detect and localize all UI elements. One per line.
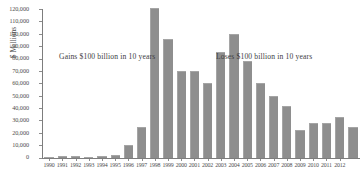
bar — [111, 155, 120, 157]
bar — [84, 157, 93, 158]
bar — [137, 127, 146, 158]
x-axis-tick-label: 1996 — [122, 162, 135, 168]
annotation-gains: Gains $100 billion in 10 years — [59, 52, 155, 61]
y-axis-tick-label: 50,000 — [12, 93, 29, 99]
annotation-loses: Loses $100 billion in 10 years — [216, 52, 312, 61]
x-axis-tick-label: 2009 — [293, 162, 306, 168]
y-axis-tick-label: 60,000 — [12, 80, 29, 86]
x-axis-tick-label: 2010 — [307, 162, 320, 168]
bar — [58, 156, 67, 157]
x-axis-tick-label: 2003 — [214, 162, 227, 168]
bar — [295, 130, 304, 157]
y-axis-tick-label: 90,000 — [12, 43, 29, 49]
plot-area — [43, 9, 360, 158]
bar — [348, 127, 357, 158]
y-axis-tick-label: 120,000 — [9, 6, 29, 12]
x-axis-tick-label: 2000 — [175, 162, 188, 168]
bar — [177, 71, 186, 158]
x-axis-tick-label: 1991 — [56, 162, 69, 168]
x-axis-tick-label: 1992 — [69, 162, 82, 168]
bar — [309, 123, 318, 158]
bar — [150, 8, 159, 158]
bar — [216, 52, 225, 157]
y-axis-tick-label: 70,000 — [12, 68, 29, 74]
x-axis-tick-label: 1990 — [43, 162, 56, 168]
bar — [203, 83, 212, 157]
bar — [335, 117, 344, 158]
bar — [282, 106, 291, 158]
x-axis-tick-label: 1999 — [161, 162, 174, 168]
bar — [322, 123, 331, 158]
y-axis-tick-labels: 010,00020,00030,00040,00050,00060,00070,… — [0, 0, 33, 179]
y-axis-tick-label: 0 — [26, 154, 29, 160]
y-axis-tick-label: 110,000 — [9, 18, 29, 24]
x-axis-tick-label: 2012 — [333, 162, 346, 168]
y-axis-tick-label: 20,000 — [12, 130, 29, 136]
bar-chart: $ Millions 010,00020,00030,00040,00050,0… — [0, 0, 362, 179]
x-axis-tick-label: 2004 — [227, 162, 240, 168]
bar — [124, 145, 133, 157]
y-axis-tick-label: 80,000 — [12, 55, 29, 61]
bar — [71, 156, 80, 158]
bar — [190, 71, 199, 158]
y-axis-tick-label: 30,000 — [12, 117, 29, 123]
x-axis-tick-label: 2007 — [267, 162, 280, 168]
bar — [256, 83, 265, 157]
x-axis-tick-label: 2011 — [320, 162, 333, 168]
x-axis-tick-label: 2008 — [280, 162, 293, 168]
y-axis-tick-label: 10,000 — [12, 142, 29, 148]
x-axis-tick-label: 1995 — [109, 162, 122, 168]
bar — [243, 61, 252, 158]
x-axis-tick-labels: 1990199119921993199419951996199719981999… — [43, 159, 360, 177]
bar — [44, 157, 53, 158]
x-axis-tick-label: 2006 — [254, 162, 267, 168]
bar — [163, 39, 172, 158]
bar — [97, 156, 106, 157]
x-axis-tick-label: 1998 — [148, 162, 161, 168]
y-axis-tick-label: 40,000 — [12, 105, 29, 111]
bar — [269, 96, 278, 158]
x-axis-tick-label: 2005 — [241, 162, 254, 168]
y-axis-tick-label: 100,000 — [9, 31, 29, 37]
x-axis-tick-label: 2001 — [188, 162, 201, 168]
x-axis-tick-label: 1997 — [135, 162, 148, 168]
x-axis-tick-label: 1993 — [82, 162, 95, 168]
x-axis-tick-label: 1994 — [95, 162, 108, 168]
x-axis-tick-label: 2002 — [201, 162, 214, 168]
